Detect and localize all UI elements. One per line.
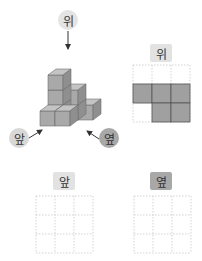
cube-view-diagram: 위 앞 옆 위 앞 옆	[0, 0, 202, 261]
arrow-front	[29, 130, 42, 138]
view-label-side: 옆	[150, 172, 172, 190]
label-front-text: 앞	[14, 130, 25, 147]
filled-cell	[171, 103, 190, 122]
label-top-circle: 위	[58, 10, 78, 30]
filled-cell	[171, 84, 190, 103]
view-grid-2	[134, 196, 191, 253]
arrow-side	[87, 131, 99, 139]
view-grid-1	[36, 196, 93, 253]
filled-cell	[152, 103, 171, 122]
filled-cell	[152, 84, 171, 103]
view-grid-0	[133, 65, 190, 122]
label-side-circle: 옆	[99, 128, 119, 148]
filled-cell	[133, 84, 152, 103]
view-label-top-text: 위	[156, 45, 167, 62]
cube-stack	[40, 69, 101, 126]
view-label-front: 앞	[53, 172, 75, 190]
view-label-front-text: 앞	[59, 173, 70, 190]
label-front-circle: 앞	[9, 128, 29, 148]
label-side-text: 옆	[104, 130, 115, 147]
label-top-text: 위	[63, 12, 74, 29]
view-label-top: 위	[150, 44, 172, 62]
view-label-side-text: 옆	[156, 173, 167, 190]
